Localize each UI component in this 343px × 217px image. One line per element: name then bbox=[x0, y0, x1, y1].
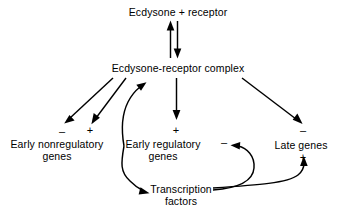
sign-late-genes-negative: – bbox=[298, 125, 308, 136]
edge-complex-to-late-genes bbox=[242, 78, 303, 124]
edge-factors-to-complex bbox=[122, 82, 146, 146]
edge-factors-to-late-genes bbox=[213, 156, 308, 188]
edge-complex-to-nonregulatory-pos bbox=[91, 78, 126, 124]
edge-complex-to-early-regulatory bbox=[173, 78, 181, 120]
sign-early-nonregulatory-negative: – bbox=[57, 126, 67, 137]
node-early-nonregulatory-genes: Early nonregulatory genes bbox=[2, 138, 112, 162]
ecdysone-cascade-diagram: Ecdysone + receptor Ecdysone-receptor co… bbox=[0, 0, 343, 217]
node-late-genes: Late genes bbox=[266, 139, 336, 151]
sign-early-regulatory-negative: – bbox=[219, 137, 229, 148]
node-ecdysone-receptor: Ecdysone + receptor bbox=[108, 6, 248, 18]
sign-early-regulatory-positive: + bbox=[171, 125, 181, 136]
edge-receptor-to-complex-up bbox=[167, 21, 175, 59]
sign-early-nonregulatory-positive: + bbox=[85, 125, 95, 136]
sign-late-genes-positive: + bbox=[298, 152, 308, 163]
node-ecdysone-receptor-complex: Ecdysone-receptor complex bbox=[98, 62, 258, 74]
edge-complex-to-nonregulatory-neg bbox=[64, 78, 113, 123]
node-early-regulatory-genes: Early regulatory genes bbox=[119, 138, 207, 162]
node-transcription-factors: Transcription factors bbox=[141, 183, 221, 207]
edge-receptor-to-complex-down bbox=[174, 21, 182, 59]
